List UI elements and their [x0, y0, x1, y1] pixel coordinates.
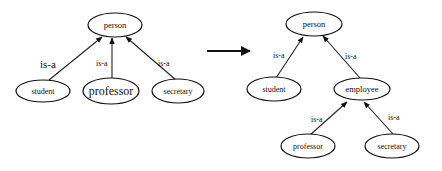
- node-student: student: [247, 77, 301, 101]
- node-student: student: [16, 80, 70, 102]
- node-label: student: [262, 85, 286, 94]
- node-label: secretary: [378, 142, 407, 151]
- after-diagram: is-a is-a is-a is-a person student emplo…: [247, 12, 419, 158]
- edge-label: is-a: [311, 115, 323, 124]
- node-label: secretary: [164, 87, 193, 96]
- edge-label: is-a: [158, 59, 170, 68]
- node-secretary: secretary: [365, 134, 419, 158]
- node-person: person: [286, 12, 342, 36]
- node-label: employee: [345, 84, 378, 94]
- edge-label: is-a: [388, 113, 400, 122]
- node-label: professor: [293, 142, 323, 151]
- edge-student-person: [49, 37, 102, 80]
- edge-label: is-a: [40, 58, 56, 70]
- node-professor: professor: [281, 134, 335, 158]
- node-person: person: [88, 13, 142, 37]
- isa-diagram: is-a is-a is-a person student professor …: [0, 0, 442, 171]
- edge-label: is-a: [345, 52, 357, 61]
- before-diagram: is-a is-a is-a person student professor …: [16, 13, 204, 104]
- edge-label: is-a: [96, 59, 108, 68]
- node-secretary: secretary: [152, 79, 204, 103]
- node-label: student: [31, 87, 55, 96]
- node-label: person: [104, 20, 127, 30]
- node-employee: employee: [334, 78, 390, 100]
- node-label: person: [303, 19, 326, 29]
- node-professor: professor: [83, 78, 139, 104]
- edge-label: is-a: [273, 51, 285, 60]
- node-label: professor: [89, 84, 134, 98]
